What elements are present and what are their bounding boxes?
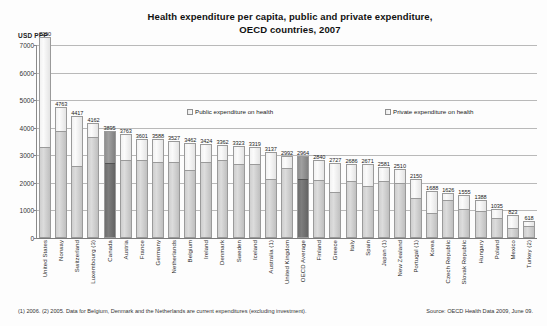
bar[interactable]: 3601 [136, 139, 148, 238]
bar[interactable]: 2581 [378, 167, 390, 238]
bar[interactable]: 3527 [168, 141, 180, 238]
x-axis-category-label: Spain [365, 240, 371, 256]
bar[interactable]: 3323 [233, 146, 245, 238]
bar[interactable]: 4763 [55, 107, 67, 238]
bar-segment-public [218, 160, 228, 237]
bar[interactable]: 1555 [458, 195, 470, 238]
bar-slot[interactable]: 3137 [265, 45, 277, 238]
x-axis-category-label: Mexico [510, 240, 516, 260]
bar-value-label: 1555 [458, 189, 470, 195]
bar-slot[interactable]: 1688 [426, 45, 438, 238]
bar-segment-public [234, 164, 244, 237]
bar-segment-private [347, 165, 357, 181]
bar-segment-public [508, 228, 518, 237]
bar[interactable]: 823 [507, 215, 519, 238]
bar-slot[interactable]: 7290 [39, 45, 51, 238]
bar-value-label: 3527 [168, 135, 180, 141]
bar-slot[interactable]: 4162 [87, 45, 99, 238]
bar-segment-private [266, 153, 276, 180]
bar-slot[interactable]: 4417 [71, 45, 83, 238]
bar[interactable]: 3362 [217, 145, 229, 238]
bar-slot[interactable]: 3895 [104, 45, 116, 238]
bar-slot[interactable]: 4763 [55, 45, 67, 238]
bar-segment-public [250, 164, 260, 237]
bar-slot[interactable]: 2727 [329, 45, 341, 238]
bar-segment-public [105, 163, 115, 237]
x-axis-category-label: New Zealand [397, 240, 403, 276]
bar-slot[interactable]: 618 [523, 45, 535, 238]
bar[interactable]: 2150 [410, 179, 422, 238]
x-axis-category-label: United Kingdom [284, 240, 290, 284]
bar[interactable]: 3763 [120, 134, 132, 238]
bar[interactable]: 2840 [313, 160, 325, 238]
bar-slot[interactable]: 823 [507, 45, 519, 238]
bar[interactable]: 7290 [39, 37, 51, 238]
bar[interactable]: 2992 [281, 156, 293, 238]
bar[interactable]: 4162 [87, 123, 99, 238]
x-axis-category-label: Belgium [187, 240, 193, 262]
bar[interactable]: 2510 [394, 169, 406, 238]
bar-segment-public [121, 160, 131, 237]
bar-slot[interactable]: 3319 [249, 45, 261, 238]
bar-slot[interactable]: 1035 [491, 45, 503, 238]
bar-slot[interactable]: 2510 [394, 45, 406, 238]
bar[interactable]: 1626 [442, 193, 454, 238]
x-axis-category-label: Slovak Republic [461, 240, 467, 285]
bar[interactable]: 3895 [104, 131, 116, 238]
bar[interactable]: 3588 [152, 139, 164, 238]
bar-segment-private [411, 180, 421, 198]
x-axis-category-label: Korea [429, 240, 435, 257]
bar-slot[interactable]: 2150 [410, 45, 422, 238]
bar-slot[interactable]: 3601 [136, 45, 148, 238]
bar-segment-private [492, 210, 502, 218]
bar-slot[interactable]: 3588 [152, 45, 164, 238]
bar-value-label: 2686 [345, 158, 357, 164]
bar[interactable]: 618 [523, 221, 535, 238]
x-axis-category-label: Poland [494, 240, 500, 259]
bar-slot[interactable]: 2964 [297, 45, 309, 238]
bar[interactable]: 1035 [491, 209, 503, 238]
bar-slot[interactable]: 3424 [200, 45, 212, 238]
bar-slot[interactable]: 3323 [233, 45, 245, 238]
bar-segment-public [347, 181, 357, 237]
bar[interactable]: 2686 [346, 164, 358, 238]
bar-segment-private [427, 192, 437, 212]
bar-segment-private [250, 148, 260, 164]
bar-slot[interactable]: 2671 [362, 45, 374, 238]
bar-slot[interactable]: 1388 [475, 45, 487, 238]
bar[interactable]: 3462 [184, 143, 196, 238]
bar-slot[interactable]: 1555 [458, 45, 470, 238]
bar-segment-public [56, 131, 66, 237]
bar-slot[interactable]: 3362 [217, 45, 229, 238]
bar-slot[interactable]: 3527 [168, 45, 180, 238]
x-axis-category-label: Australia (1) [268, 240, 274, 274]
bar-segment-private [379, 168, 389, 181]
x-axis-category-label: Norway [58, 240, 64, 261]
bar[interactable]: 2671 [362, 164, 374, 238]
bar[interactable]: 2727 [329, 163, 341, 238]
bar[interactable]: 2964 [297, 156, 309, 238]
bar-slot[interactable]: 3462 [184, 45, 196, 238]
bar-slot[interactable]: 2581 [378, 45, 390, 238]
bar-value-label: 3588 [152, 133, 164, 139]
x-axis-category-label: Switzerland [74, 240, 80, 272]
bar-slot[interactable]: 2992 [281, 45, 293, 238]
bar-slot[interactable]: 1626 [442, 45, 454, 238]
bar-slot[interactable]: 3763 [120, 45, 132, 238]
bar-segment-private [105, 132, 115, 164]
bar[interactable]: 3424 [200, 144, 212, 238]
x-axis-category-label: Japan (1) [381, 240, 387, 266]
bar-segment-public [282, 168, 292, 237]
bar[interactable]: 3319 [249, 147, 261, 239]
bar[interactable]: 3137 [265, 152, 277, 238]
bar-value-label: 7290 [39, 31, 51, 37]
bar[interactable]: 1688 [426, 191, 438, 238]
bar[interactable]: 4417 [71, 116, 83, 238]
bar-segment-public [476, 211, 486, 237]
bar-slot[interactable]: 2686 [346, 45, 358, 238]
bar-slot[interactable]: 2840 [313, 45, 325, 238]
bar-value-label: 4162 [87, 117, 99, 123]
footnote-notes: (1) 2006. (2) 2005. Data for Belgium, De… [18, 308, 307, 314]
x-axis-category-label: Greece [332, 240, 338, 260]
bar[interactable]: 1388 [475, 200, 487, 238]
